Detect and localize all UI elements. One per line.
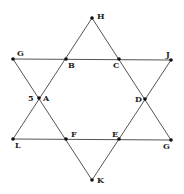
- edge-j-k: [92, 60, 171, 180]
- label-b: B: [68, 60, 75, 70]
- edges-group: [13, 18, 171, 180]
- label-c: C: [113, 60, 119, 70]
- label-f: F: [71, 129, 77, 139]
- points-group: [11, 16, 173, 182]
- label-g1: G: [17, 48, 24, 58]
- edge-g1-j: [13, 59, 171, 60]
- hexagram-diagram: HGBCJADLFEGK5: [0, 0, 184, 194]
- label-l: L: [15, 140, 21, 150]
- point-g1: [11, 57, 15, 61]
- label-k: K: [97, 175, 105, 185]
- edge-l-g2: [13, 139, 171, 140]
- point-a: [37, 96, 41, 100]
- annotation-number: 5: [28, 93, 34, 103]
- edge-h-g2: [92, 18, 171, 140]
- label-e: E: [112, 129, 118, 139]
- label-g2: G: [163, 141, 170, 151]
- point-k: [90, 178, 94, 182]
- point-h: [90, 16, 94, 20]
- label-d: D: [135, 94, 142, 104]
- edge-h-l: [13, 18, 92, 139]
- point-d: [143, 97, 147, 101]
- label-a: A: [42, 93, 50, 103]
- label-j: J: [165, 49, 170, 59]
- point-f: [64, 137, 68, 141]
- label-h: H: [97, 11, 105, 21]
- edge-g1-k: [13, 59, 92, 180]
